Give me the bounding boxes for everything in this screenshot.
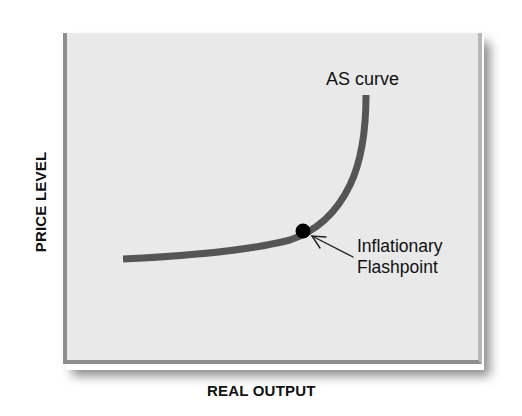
as-curve-line [123, 95, 366, 259]
x-axis-label: REAL OUTPUT [207, 382, 316, 399]
inflationary-flashpoint-marker [296, 224, 311, 239]
point-label-line-2: Flashpoint [357, 257, 443, 278]
pointer-arrow-icon [312, 236, 353, 257]
point-label-line-1: Inflationary [357, 236, 443, 257]
as-curve-label: AS curve [326, 69, 399, 90]
y-axis-label: PRICE LEVEL [32, 152, 49, 253]
as-curve-plot [0, 0, 522, 416]
inflationary-flashpoint-label: Inflationary Flashpoint [357, 236, 443, 278]
